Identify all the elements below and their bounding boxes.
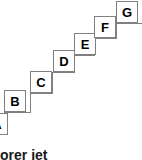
- figure-screenshot: A B C D E F G explorer jet: [0, 0, 142, 160]
- staircase-diagram: A B C D E F G: [0, 0, 142, 145]
- figure-caption-text: explorer jet: [0, 147, 142, 160]
- node-d[interactable]: D: [53, 50, 75, 72]
- node-e-label: E: [81, 38, 90, 51]
- node-b[interactable]: B: [4, 90, 26, 112]
- figure-caption: explorer jet: [0, 147, 142, 160]
- node-f-label: F: [101, 21, 109, 34]
- node-d-label: D: [59, 55, 68, 68]
- node-g[interactable]: G: [116, 1, 138, 23]
- node-e[interactable]: E: [74, 33, 96, 55]
- node-f[interactable]: F: [94, 16, 116, 38]
- node-g-label: G: [122, 6, 132, 19]
- node-a[interactable]: A: [0, 113, 8, 135]
- node-c-label: C: [36, 76, 45, 89]
- node-b-label: B: [10, 95, 19, 108]
- step-path: [0, 23, 142, 131]
- node-a-label: A: [0, 118, 2, 131]
- node-c[interactable]: C: [30, 71, 52, 93]
